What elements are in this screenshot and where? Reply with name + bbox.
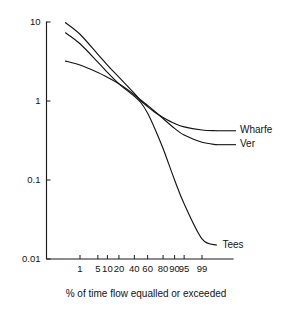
x-tick-label: 60 xyxy=(142,263,153,274)
y-tick-label: 10 xyxy=(30,16,41,27)
data-curves xyxy=(66,23,217,245)
y-axis-tick-marks xyxy=(47,22,51,259)
series-label-wharfe: Wharfe xyxy=(240,124,273,135)
x-tick-label: 10 xyxy=(102,263,113,274)
series-labels: WharfeVerTees xyxy=(222,124,272,249)
y-axis-tick-labels: 1010.10.01 xyxy=(22,16,41,264)
x-tick-label: 80 xyxy=(158,263,169,274)
x-axis-tick-marks xyxy=(80,255,202,259)
x-axis-tick-labels: 151020406080909599 xyxy=(77,263,207,274)
chart-canvas: 1010.10.01 151020406080909599 WharfeVerT… xyxy=(0,0,291,320)
series-label-tees: Tees xyxy=(222,239,243,250)
curve-wharfe xyxy=(66,23,217,131)
x-tick-label: 20 xyxy=(114,263,125,274)
x-axis-caption: % of time flow equalled or exceeded xyxy=(66,288,227,299)
y-tick-label: 0.01 xyxy=(22,253,41,264)
flow-duration-chart: 1010.10.01 151020406080909599 WharfeVerT… xyxy=(0,0,291,320)
x-tick-label: 40 xyxy=(129,263,140,274)
y-tick-label: 0.1 xyxy=(27,174,40,185)
y-tick-label: 1 xyxy=(35,95,40,106)
x-tick-label: 95 xyxy=(179,263,190,274)
x-tick-label: 1 xyxy=(77,263,82,274)
label-leader-lines xyxy=(216,131,236,145)
axis-frame xyxy=(47,22,234,259)
x-tick-label: 99 xyxy=(197,263,208,274)
x-tick-label: 5 xyxy=(95,263,100,274)
series-label-ver: Ver xyxy=(240,138,256,149)
